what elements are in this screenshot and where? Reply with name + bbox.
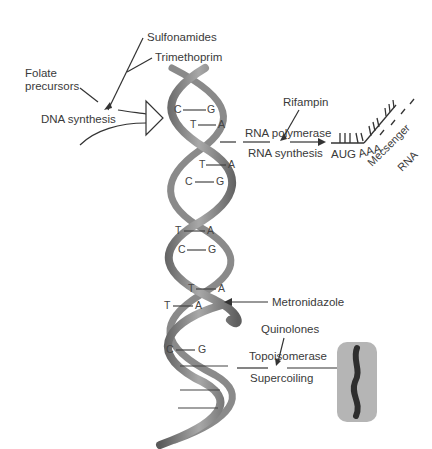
- base-left: T: [188, 283, 194, 294]
- base-right: A: [218, 283, 225, 294]
- label-rifampin: Rifampin: [283, 96, 328, 109]
- label-metronidazole: Metronidazole: [272, 296, 344, 309]
- base-left: C: [174, 104, 182, 115]
- base-right: G: [216, 176, 224, 187]
- antibiotic-mechanism-diagram: Sulfonamides Trimethoprim Folate precurs…: [0, 0, 432, 449]
- label-supercoiling: Supercoiling: [250, 372, 313, 385]
- label-dna-synthesis: DNA synthesis: [41, 113, 116, 126]
- base-right: A: [218, 119, 225, 130]
- label-rna-synthesis: RNA synthesis: [248, 147, 323, 160]
- dna-synthesis-arrows: [80, 38, 163, 145]
- base-left: T: [199, 159, 205, 170]
- label-trimethoprim: Trimethoprim: [155, 51, 222, 64]
- label-rna-polymerase: RNA polymerase: [245, 127, 331, 140]
- base-right: A: [195, 300, 202, 311]
- label-sulfonamides: Sulfonamides: [147, 31, 217, 44]
- diagram-graphics: [0, 0, 432, 449]
- base-left: T: [164, 300, 170, 311]
- base-left: T: [190, 119, 196, 130]
- base-right: G: [198, 344, 206, 355]
- label-folate: Folate: [25, 67, 57, 80]
- label-quinolones: Quinolones: [261, 323, 319, 336]
- base-left: T: [175, 225, 181, 236]
- label-topoisomerase: Topoisomerase: [249, 350, 327, 363]
- base-left: C: [166, 344, 174, 355]
- base-right: A: [207, 225, 214, 236]
- label-aug: AUG: [331, 148, 356, 161]
- base-left: C: [178, 244, 186, 255]
- base-left: C: [185, 176, 193, 187]
- base-right: G: [208, 244, 216, 255]
- base-right: G: [207, 104, 215, 115]
- label-folate-precursors: precursors: [25, 80, 79, 93]
- base-right: A: [228, 159, 235, 170]
